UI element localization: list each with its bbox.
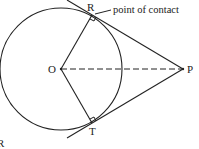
point-P xyxy=(182,68,184,70)
label-stray-R: R xyxy=(0,137,5,149)
label-P: P xyxy=(187,63,193,75)
label-T: T xyxy=(89,125,96,137)
radius-OR xyxy=(61,15,92,69)
point-O xyxy=(60,68,62,70)
annotation-pointer xyxy=(95,10,111,14)
label-R: R xyxy=(87,1,95,13)
tangent-diagram: O R T P point of contact R xyxy=(0,0,199,149)
radius-OT xyxy=(61,69,92,123)
tangent-PT xyxy=(67,69,183,138)
label-O: O xyxy=(48,63,56,75)
annotation-point-of-contact: point of contact xyxy=(113,4,179,15)
